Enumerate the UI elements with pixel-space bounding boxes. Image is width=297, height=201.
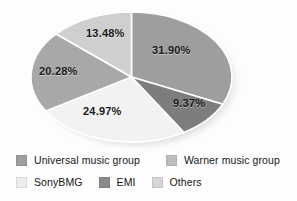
legend-swatch-icon <box>99 177 110 188</box>
legend-swatch-icon <box>166 155 177 166</box>
slice-value-warner: 20.28% <box>39 65 78 77</box>
legend-row-1: Universal music group Warner music group <box>0 149 297 171</box>
legend-swatch-icon <box>16 155 27 166</box>
legend-item-others: Others <box>152 176 202 188</box>
legend-label-emi: EMI <box>117 176 136 188</box>
slice-value-others: 13.48% <box>86 27 125 39</box>
legend-label-universal: Universal music group <box>34 154 140 166</box>
slice-value-universal: 31.90% <box>152 44 191 56</box>
legend-label-others: Others <box>170 176 202 188</box>
legend-swatch-icon <box>152 177 163 188</box>
legend-item-warner: Warner music group <box>166 154 280 166</box>
pie-chart-figure: 31.90% 9.37% 24.97% 20.28% 13.48% Univer… <box>0 0 297 201</box>
legend-swatch-icon <box>16 177 27 188</box>
legend-item-sonybmg: SonyBMG <box>16 176 83 188</box>
legend-row-2: SonyBMG EMI Others <box>0 171 297 193</box>
legend-label-warner: Warner music group <box>184 154 280 166</box>
chart-plot-area: 31.90% 9.37% 24.97% 20.28% 13.48% <box>0 0 297 148</box>
chart-legend: Universal music group Warner music group… <box>0 149 297 201</box>
legend-item-emi: EMI <box>99 176 136 188</box>
slice-value-sonybmg: 24.97% <box>83 105 122 117</box>
legend-label-sonybmg: SonyBMG <box>34 176 83 188</box>
slice-value-emi: 9.37% <box>173 97 205 109</box>
legend-item-universal: Universal music group <box>16 154 140 166</box>
